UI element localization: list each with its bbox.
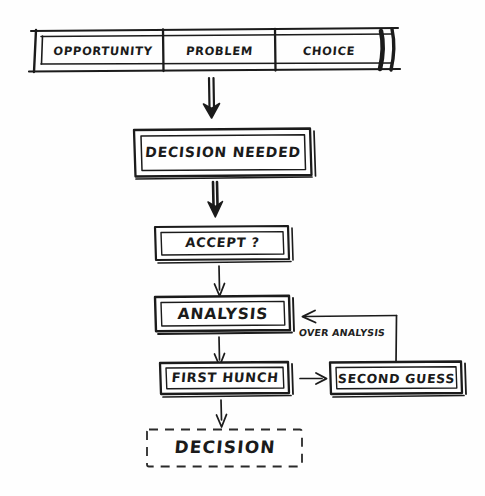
edge-first-hunch-to-decision (217, 400, 227, 427)
node-first-hunch-shape[interactable] (160, 362, 293, 397)
edge-first-hunch-to-second-guess (300, 373, 327, 384)
edge-accept-to-analysis (215, 266, 225, 296)
edge-second-guess-to-analysis (303, 311, 397, 365)
node-analysis-shape[interactable] (155, 296, 294, 334)
node-decision-shape[interactable] (147, 430, 302, 467)
flowchart-canvas: OPPORTUNITY PROBLEM CHOICE DECISION NEED… (0, 0, 485, 496)
node-second-guess-shape[interactable] (330, 362, 466, 398)
inputs-bar-shape[interactable] (29, 28, 400, 72)
node-accept-shape[interactable] (155, 226, 293, 263)
node-decision-needed-shape[interactable] (134, 129, 316, 180)
flowchart-strokes (0, 0, 485, 496)
edge-decision-needed-to-accept (208, 182, 223, 217)
edge-bar-to-decision-needed (204, 78, 220, 118)
